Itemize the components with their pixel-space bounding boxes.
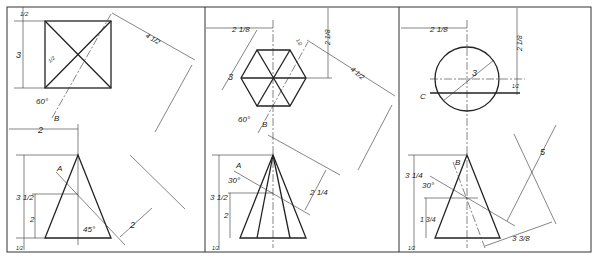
label-bottom-offset: 1/2 bbox=[212, 245, 219, 251]
label-top-offset: 1/2 bbox=[20, 11, 29, 17]
label-b: B bbox=[455, 158, 461, 167]
label-bottom-offset: 1/2 bbox=[16, 245, 23, 251]
label-top-offset: 2 1/8 bbox=[516, 35, 523, 52]
label-width: 2 1/8 bbox=[429, 25, 448, 34]
label-plane-angle: 45° bbox=[83, 225, 96, 234]
label-height: 3 1/2 bbox=[210, 193, 228, 202]
cone-front-view bbox=[435, 155, 500, 238]
label-angle: 60° bbox=[238, 115, 251, 124]
label-aux-dist: 4 1/2 bbox=[145, 32, 162, 46]
label-top-offset: 2 1/8 bbox=[324, 29, 331, 46]
label-bottom-offset: 1/2 bbox=[408, 245, 415, 251]
label-small-dim: 1/2 bbox=[512, 83, 519, 89]
label-plane-angle: 30° bbox=[422, 181, 435, 190]
label-section-line: C bbox=[420, 92, 426, 101]
label-height: 3 1/4 bbox=[405, 171, 423, 180]
label-angle: 60° bbox=[36, 97, 49, 106]
panel-middle: B 60° 2 1/8 2 1/8 3 1/2 4 1/2 3 1/2 2 1/… bbox=[206, 8, 395, 251]
label-aux-offset: 3 3/8 bbox=[512, 234, 530, 243]
label-lower-height: 1 3/4 bbox=[420, 216, 436, 223]
label-a: A bbox=[56, 164, 62, 173]
label-b: B bbox=[262, 120, 268, 129]
label-height: 3 1/2 bbox=[16, 193, 34, 202]
label-aux-dist: 4 1/2 bbox=[349, 65, 366, 80]
label-lower-height: 2 bbox=[29, 215, 35, 224]
label-width: 2 bbox=[37, 125, 43, 135]
label-side: 3 bbox=[16, 50, 21, 60]
label-small-dim: 1/2 bbox=[295, 38, 304, 47]
label-small-dim: 1/2 bbox=[47, 55, 56, 64]
label-width: 2 1/8 bbox=[231, 25, 250, 34]
label-aux-dist: 5 bbox=[540, 147, 546, 157]
label-diameter: 3 bbox=[472, 68, 477, 78]
label-aux-offset: 2 bbox=[129, 220, 135, 230]
technical-drawing: B 60° 1/2 3 1/2 4 1/2 2 3 1/2 2 1/2 A 45… bbox=[0, 0, 598, 259]
label-plane-angle: 30° bbox=[228, 176, 241, 185]
label-b: B bbox=[54, 114, 60, 123]
label-aux-offset: 2 1/4 bbox=[309, 188, 328, 197]
panel-right: C 3 2 1/8 2 1/8 1/2 3 1/4 1 3/4 1/2 B 30… bbox=[401, 8, 556, 251]
label-side: 3 bbox=[228, 72, 233, 82]
label-lower-height: 2 bbox=[223, 211, 229, 220]
drawing-sheet: B 60° 1/2 3 1/2 4 1/2 2 3 1/2 2 1/2 A 45… bbox=[0, 0, 598, 259]
panel-left: B 60° 1/2 3 1/2 4 1/2 2 3 1/2 2 1/2 A 45… bbox=[9, 7, 195, 251]
label-a: A bbox=[235, 161, 241, 170]
